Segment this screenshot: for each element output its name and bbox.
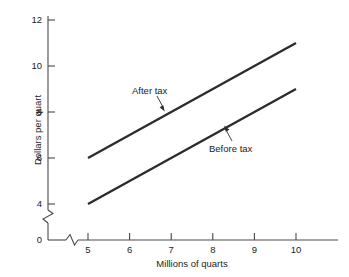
chart-plot-area (0, 0, 349, 277)
x-tick-label-10: 10 (291, 245, 302, 255)
y-axis-break-mark (43, 210, 53, 223)
series-annotation-after-tax: After tax (132, 85, 167, 96)
after-tax-arrow-head (160, 105, 165, 111)
y-axis-title: Dollars per quart (32, 95, 43, 165)
series-line-before-tax (88, 89, 296, 204)
x-tick-label-6: 6 (127, 245, 132, 255)
x-tick-label-5: 5 (85, 245, 90, 255)
series-line-after-tax (88, 43, 296, 158)
y-tick-label-0: 0 (22, 235, 42, 245)
y-tick-label-12: 12 (22, 15, 42, 25)
x-axis-title: Millions of quarts (156, 258, 227, 269)
x-axis-break-mark (66, 235, 78, 246)
x-tick-label-8: 8 (210, 245, 215, 255)
x-tick-label-7: 7 (169, 245, 174, 255)
series-annotation-before-tax: Before tax (209, 143, 252, 154)
y-tick-label-4: 4 (22, 199, 42, 209)
y-tick-label-10: 10 (22, 61, 42, 71)
supply-curve-chart: 12 10 8 6 4 0 5 6 7 8 9 10 Dollars per q… (0, 0, 349, 277)
x-tick-label-9: 9 (252, 245, 257, 255)
